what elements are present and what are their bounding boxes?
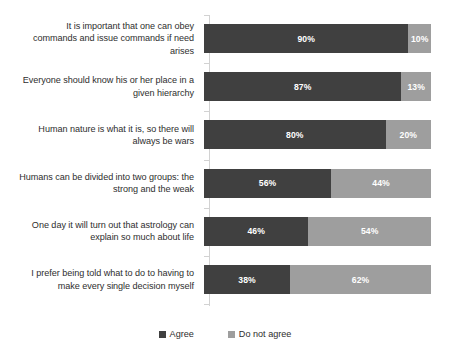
stacked-bar-chart: It is important that one can obey comman… <box>0 0 450 361</box>
segment-value-label: 87% <box>294 82 312 92</box>
bar-segment-do-not-agree[interactable]: 62% <box>290 265 431 294</box>
bar-track: 87%13% <box>204 72 431 101</box>
bar-segment-do-not-agree[interactable]: 10% <box>408 24 431 53</box>
axis-tick <box>204 304 209 305</box>
bar-row: Human nature is what it is, so there wil… <box>0 120 450 149</box>
legend-item[interactable]: Do not agree <box>228 329 292 339</box>
axis-tick <box>204 111 209 112</box>
axis-tick <box>204 63 209 64</box>
bar-segment-agree[interactable]: 87% <box>204 72 401 101</box>
segment-value-label: 80% <box>286 130 304 140</box>
category-label: I prefer being told what to do to having… <box>0 267 200 291</box>
segment-value-label: 13% <box>407 82 425 92</box>
segment-value-label: 20% <box>400 130 418 140</box>
bar-track: 56%44% <box>204 169 431 198</box>
category-label: It is important that one can obey comman… <box>0 20 200 57</box>
segment-value-label: 54% <box>361 226 379 236</box>
bar-segment-agree[interactable]: 46% <box>204 217 308 246</box>
category-label: Humans can be divided into two groups: t… <box>0 171 200 195</box>
segment-value-label: 10% <box>411 34 429 44</box>
bar-track: 90%10% <box>204 24 431 53</box>
segment-value-label: 46% <box>247 226 265 236</box>
bar-row: I prefer being told what to do to having… <box>0 265 450 294</box>
bar-track: 80%20% <box>204 120 431 149</box>
bar-segment-do-not-agree[interactable]: 54% <box>308 217 431 246</box>
segment-value-label: 62% <box>352 275 370 285</box>
axis-tick <box>204 160 209 161</box>
chart-legend: AgreeDo not agree <box>0 329 450 339</box>
category-label: One day it will turn out that astrology … <box>0 219 200 243</box>
category-label: Everyone should know his or her place in… <box>0 74 200 98</box>
bar-segment-agree[interactable]: 90% <box>204 24 408 53</box>
bar-track: 38%62% <box>204 265 431 294</box>
bar-row: Everyone should know his or her place in… <box>0 72 450 101</box>
plot-area: It is important that one can obey comman… <box>0 15 450 305</box>
bar-row: It is important that one can obey comman… <box>0 24 450 53</box>
legend-label: Agree <box>170 329 194 339</box>
bar-segment-do-not-agree[interactable]: 13% <box>401 72 431 101</box>
segment-value-label: 38% <box>238 275 256 285</box>
axis-tick <box>204 208 209 209</box>
segment-value-label: 44% <box>372 178 390 188</box>
legend-item[interactable]: Agree <box>159 329 194 339</box>
legend-label: Do not agree <box>239 329 292 339</box>
axis-tick <box>204 256 209 257</box>
segment-value-label: 56% <box>259 178 277 188</box>
bar-segment-agree[interactable]: 56% <box>204 169 331 198</box>
bar-segment-do-not-agree[interactable]: 44% <box>331 169 431 198</box>
bar-track: 46%54% <box>204 217 431 246</box>
legend-swatch-icon <box>228 331 235 338</box>
legend-swatch-icon <box>159 331 166 338</box>
bar-segment-agree[interactable]: 38% <box>204 265 290 294</box>
category-label: Human nature is what it is, so there wil… <box>0 123 200 147</box>
bar-row: Humans can be divided into two groups: t… <box>0 169 450 198</box>
axis-tick <box>204 15 209 16</box>
bar-row: One day it will turn out that astrology … <box>0 217 450 246</box>
bar-segment-agree[interactable]: 80% <box>204 120 386 149</box>
bar-segment-do-not-agree[interactable]: 20% <box>386 120 431 149</box>
segment-value-label: 90% <box>297 34 315 44</box>
